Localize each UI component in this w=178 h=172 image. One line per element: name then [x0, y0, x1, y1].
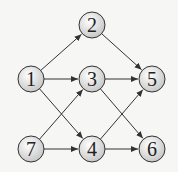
node-1: 1: [18, 66, 44, 92]
node-label: 3: [87, 68, 97, 90]
node-label: 6: [147, 138, 157, 160]
graph-canvas: 1234567: [0, 0, 178, 172]
node-3: 3: [79, 66, 105, 92]
node-label: 1: [26, 68, 36, 90]
node-label: 4: [87, 138, 97, 160]
node-6: 6: [139, 136, 165, 162]
node-5: 5: [139, 66, 165, 92]
node-4: 4: [79, 136, 105, 162]
node-7: 7: [18, 136, 44, 162]
node-2: 2: [79, 12, 105, 38]
graph-diagram: 1234567: [0, 0, 178, 172]
edge-1-to-2: [41, 34, 82, 70]
edge-2-to-5: [102, 34, 142, 70]
node-label: 5: [147, 68, 157, 90]
node-label: 7: [26, 138, 36, 160]
node-label: 2: [87, 14, 97, 36]
